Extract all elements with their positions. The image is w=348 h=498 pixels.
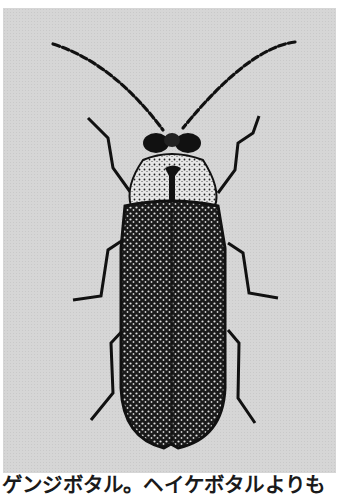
antenna-right [183,42,295,128]
antenna-left [53,44,163,130]
beetle-figure [3,8,336,473]
firefly-illustration [3,8,336,473]
elytra [121,201,225,448]
figure-caption: ゲンジボタル。ヘイケボタルよりも [2,473,348,498]
